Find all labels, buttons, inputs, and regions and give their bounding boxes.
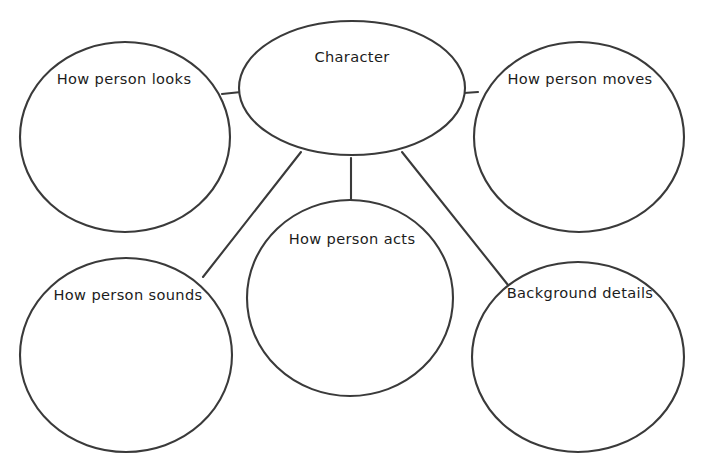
bubble-how-person-acts[interactable]: How person acts xyxy=(247,200,453,396)
diagram-svg: How person looksHow person movesHow pers… xyxy=(0,0,703,468)
bubble-how-person-looks[interactable]: How person looks xyxy=(20,42,230,232)
connector-center-to-looks xyxy=(222,92,241,94)
graphic-organizer-canvas: How person looksHow person movesHow pers… xyxy=(0,0,703,468)
bubble-label-how-person-moves: How person moves xyxy=(507,70,652,87)
connector-center-to-moves xyxy=(464,92,478,93)
center-shape-character[interactable] xyxy=(239,21,465,155)
bubble-how-person-moves[interactable]: How person moves xyxy=(474,42,684,232)
bubble-label-how-person-sounds: How person sounds xyxy=(54,286,203,303)
bubble-character[interactable]: Character xyxy=(239,21,465,155)
bubble-label-background-details: Background details xyxy=(507,284,654,301)
bubble-label-how-person-looks: How person looks xyxy=(57,70,192,87)
bubble-background-details[interactable]: Background details xyxy=(472,262,684,452)
bubble-label-how-person-acts: How person acts xyxy=(289,230,416,247)
bubble-how-person-sounds[interactable]: How person sounds xyxy=(20,258,232,452)
bubble-layer: How person looksHow person movesHow pers… xyxy=(20,21,684,452)
bubble-label-character: Character xyxy=(314,48,389,65)
